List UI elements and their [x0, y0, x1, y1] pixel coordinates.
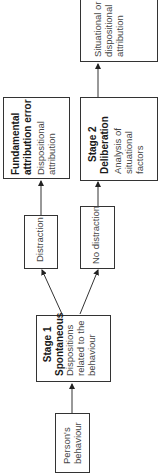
stage2-title-line2: Deliberation — [99, 116, 111, 174]
distraction-box: Distraction — [24, 215, 58, 269]
stage2-title-line1: Stage 2 — [87, 116, 99, 174]
persons-behaviour-line2: behaviour — [73, 422, 84, 464]
stage1-title-line1: Stage 1 — [42, 313, 54, 376]
outcome-line3: attribution — [115, 2, 126, 57]
stage1-box: Stage 1 Spontaneous Dispositions related… — [36, 315, 111, 382]
no-distraction-box: No distraction — [80, 206, 115, 269]
fae-title-line2: attribution error — [22, 99, 34, 175]
fundamental-attribution-error-box: Fundamental attribution error Dispositio… — [3, 97, 70, 179]
stage1-body-line3: behaviour — [87, 313, 98, 376]
stage2-body-line3: factors — [135, 116, 146, 174]
fae-title-line1: Fundamental — [10, 99, 22, 175]
no-distraction-label: No distraction — [91, 206, 102, 264]
fae-body-line2: attribution — [47, 99, 58, 175]
stage2-box: Stage 2 Deliberation Analysis of situati… — [80, 97, 158, 181]
distraction-label: Distraction — [35, 217, 46, 262]
persons-behaviour-box: Person's behaviour — [55, 413, 90, 473]
outcome-box: Situational or dispositional attribution — [80, 0, 158, 62]
